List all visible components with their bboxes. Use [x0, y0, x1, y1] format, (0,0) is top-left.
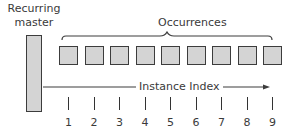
occurrence-box	[238, 46, 257, 65]
index-number: 3	[114, 116, 126, 129]
index-number: 4	[139, 116, 151, 129]
occurrences-label: Occurrences	[158, 16, 227, 29]
index-tick	[247, 97, 248, 110]
index-tick	[221, 97, 222, 110]
index-number: 8	[241, 116, 253, 129]
occurrences-brace	[62, 32, 272, 40]
occurrence-box	[59, 46, 78, 65]
index-tick	[119, 97, 120, 110]
occurrence-box	[263, 46, 282, 65]
index-number: 2	[88, 116, 100, 129]
index-tick	[196, 97, 197, 110]
index-number: 9	[267, 116, 279, 129]
index-number: 6	[190, 116, 202, 129]
arrow-head-icon	[263, 85, 270, 90]
instance-index-label: Instance Index	[136, 80, 223, 93]
occurrence-box	[85, 46, 104, 65]
index-tick	[68, 97, 69, 110]
occurrence-box	[161, 46, 180, 65]
occurrence-box	[110, 46, 129, 65]
index-number: 7	[216, 116, 228, 129]
index-number: 5	[165, 116, 177, 129]
index-tick	[145, 97, 146, 110]
occurrence-box	[136, 46, 155, 65]
index-tick	[94, 97, 95, 110]
occurrence-box	[187, 46, 206, 65]
connectors	[0, 0, 291, 131]
index-number: 1	[63, 116, 75, 129]
index-tick	[272, 97, 273, 110]
occurrence-box	[212, 46, 231, 65]
index-tick	[170, 97, 171, 110]
